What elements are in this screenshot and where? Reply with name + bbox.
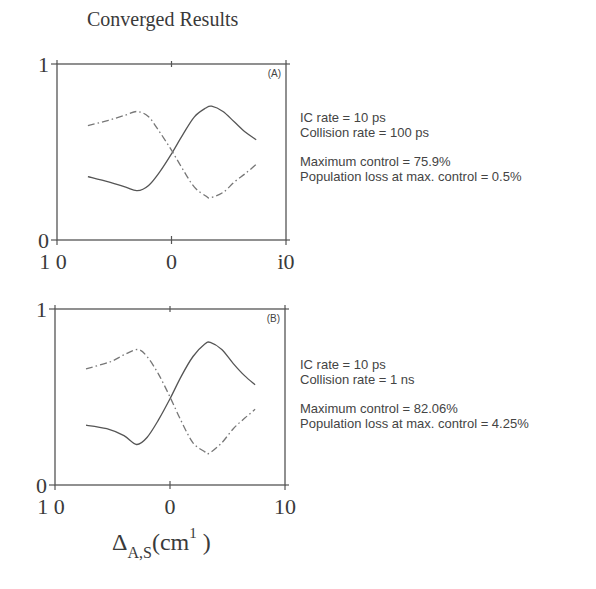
x-tick-label: 0 xyxy=(166,249,177,274)
x-tick-label: 1 0 xyxy=(39,249,67,274)
panel-a-annotations: IC rate = 10 ps Collision rate = 100 ps … xyxy=(300,110,521,184)
max-control-label: Maximum control = 75.9% xyxy=(300,154,521,169)
panel-tag: (A) xyxy=(268,68,281,79)
dashdot-series-line xyxy=(88,111,256,198)
panel-b-plot: 101 0010(B) xyxy=(36,297,296,519)
y-tick-label: 1 xyxy=(38,52,49,77)
ic-rate-label: IC rate = 10 ps xyxy=(300,357,529,372)
population-loss-label: Population loss at max. control = 4.25% xyxy=(300,416,529,431)
x-tick-label: 0 xyxy=(165,494,176,519)
panel-a-plot: 101 00i0(A) xyxy=(38,52,295,274)
x-tick-label: 10 xyxy=(274,494,296,519)
x-axis-unit: (cm xyxy=(152,529,189,555)
x-axis-label: ΔA,S(cm1 ) xyxy=(112,525,211,562)
x-tick-label: i0 xyxy=(277,249,294,274)
panel-b-annotations: IC rate = 10 ps Collision rate = 1 ns Ma… xyxy=(300,357,529,431)
ic-rate-label: IC rate = 10 ps xyxy=(300,110,521,125)
max-control-label: Maximum control = 82.06% xyxy=(300,401,529,416)
x-axis-unit-close: ) xyxy=(197,529,211,555)
panel-tag: (B) xyxy=(267,313,280,324)
solid-series-line xyxy=(88,106,256,191)
solid-series-line xyxy=(86,342,255,445)
x-axis-unit-exponent: 1 xyxy=(189,525,197,541)
population-loss-label: Population loss at max. control = 0.5% xyxy=(300,169,521,184)
x-tick-label: 1 0 xyxy=(37,494,65,519)
collision-rate-label: Collision rate = 1 ns xyxy=(300,372,529,387)
y-tick-label: 1 xyxy=(36,297,47,322)
x-axis-subscript: A,S xyxy=(127,544,151,561)
collision-rate-label: Collision rate = 100 ps xyxy=(300,125,521,140)
dashdot-series-line xyxy=(86,349,255,453)
plot-frame xyxy=(55,309,285,485)
figure-canvas: 101 00i0(A) 101 0010(B) xyxy=(0,0,596,589)
delta-symbol: Δ xyxy=(112,529,127,555)
plot-frame xyxy=(57,64,286,240)
